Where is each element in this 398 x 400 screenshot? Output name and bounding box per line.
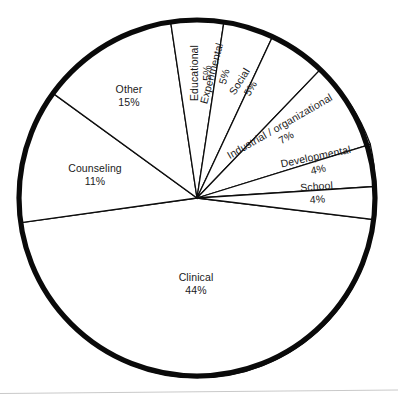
pie-chart-figure: Other 15% Educational 5% Experimental 5%… <box>0 0 398 400</box>
page-edge-artifact <box>0 390 398 394</box>
slice-clinical <box>21 198 374 378</box>
pie-chart-svg <box>0 0 398 400</box>
